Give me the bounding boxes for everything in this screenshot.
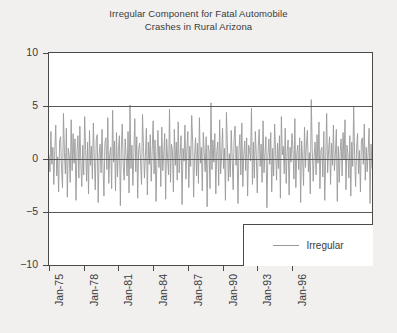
- x-tick-mark: [223, 266, 224, 271]
- chart-canvas: Irregular Component for Fatal Automobile…: [0, 0, 397, 333]
- x-tick-label: Jan-84: [157, 274, 169, 306]
- y-tick-label: 10: [26, 46, 38, 58]
- x-tick-mark: [153, 266, 154, 271]
- y-tick-label: −5: [26, 205, 38, 217]
- legend-line-icon: [273, 245, 299, 247]
- gridline-y-0: [49, 159, 372, 160]
- x-tick-label: Jan-78: [88, 274, 100, 306]
- x-tick-label: Jan-75: [53, 274, 65, 306]
- x-tick-mark: [118, 266, 119, 271]
- y-axis: 1050−5−10: [0, 52, 48, 266]
- x-tick-label: Jan-81: [122, 274, 134, 306]
- y-tick-label: 0: [32, 152, 38, 164]
- gridline-y--5: [49, 212, 372, 213]
- chart-title-line-2: Crashes in Rural Arizona: [0, 21, 397, 34]
- x-tick-label: Jan-87: [192, 274, 204, 306]
- legend: Irregular: [243, 224, 373, 266]
- legend-entry-irregular: Irregular: [273, 240, 343, 251]
- chart-title-line-1: Irregular Component for Fatal Automobile: [0, 8, 397, 21]
- x-tick-label: Jan-96: [296, 274, 308, 306]
- x-tick-mark: [49, 266, 50, 271]
- x-tick-mark: [257, 266, 258, 271]
- chart-title: Irregular Component for Fatal Automobile…: [0, 8, 397, 33]
- x-tick-label: Jan-93: [261, 274, 273, 306]
- gridline-y-5: [49, 106, 372, 107]
- x-tick-label: Jan-90: [227, 274, 239, 306]
- x-axis: Jan-75Jan-78Jan-81Jan-84Jan-87Jan-90Jan-…: [0, 266, 397, 333]
- x-tick-mark: [84, 266, 85, 271]
- legend-label: Irregular: [306, 240, 343, 251]
- x-tick-mark: [188, 266, 189, 271]
- y-tick-label: 5: [32, 99, 38, 111]
- x-tick-mark: [292, 266, 293, 271]
